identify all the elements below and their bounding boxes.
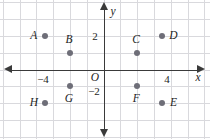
gridline-horizontal	[0, 19, 210, 20]
coordinate-plane-figure: x y O −4 4 2 −2 ABCDEFGH	[0, 0, 210, 139]
x-axis-label: x	[195, 72, 200, 84]
y-tick-label-neg2: −2	[88, 86, 100, 97]
y-tick-label-2: 2	[92, 31, 98, 42]
plotted-point-g	[67, 83, 73, 89]
x-tick-label-4: 4	[164, 74, 170, 85]
x-axis-left-arrow-icon	[4, 65, 12, 73]
point-label-c: C	[132, 34, 140, 46]
plotted-point-a	[42, 33, 48, 39]
plotted-point-h	[42, 100, 48, 106]
plotted-point-d	[159, 33, 165, 39]
origin-label: O	[91, 72, 99, 84]
gridline-horizontal	[0, 53, 210, 54]
x-tick-label-neg4: −4	[37, 74, 49, 85]
point-label-a: A	[30, 30, 37, 42]
point-label-b: B	[65, 34, 72, 46]
point-label-e: E	[170, 97, 177, 109]
point-label-d: D	[169, 30, 177, 42]
plotted-point-b	[67, 50, 73, 56]
y-axis-down-arrow-icon	[100, 129, 108, 137]
point-label-h: H	[30, 97, 38, 109]
point-label-g: G	[65, 94, 73, 106]
plotted-point-c	[134, 50, 140, 56]
x-axis-line	[11, 70, 199, 71]
plotted-point-f	[134, 83, 140, 89]
y-axis-line	[104, 8, 105, 132]
gridline-horizontal	[0, 86, 210, 87]
y-axis-up-arrow-icon	[100, 2, 108, 10]
y-axis-label: y	[110, 6, 115, 18]
plotted-point-e	[159, 100, 165, 106]
gridline-horizontal	[0, 120, 210, 121]
point-label-f: F	[133, 94, 140, 106]
